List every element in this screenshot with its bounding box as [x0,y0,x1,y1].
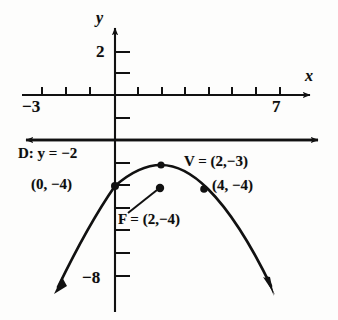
y-tick-label-2: 2 [96,43,105,60]
y-tick-label-minus8: −8 [82,269,100,286]
x-axis-label: x [305,68,313,84]
y-axis-label: y [96,10,103,26]
y-axis [115,28,130,312]
point-focus [156,184,164,192]
right-point-label: (4, −4) [212,178,253,193]
point-y-intercept [111,182,119,190]
x-axis [22,87,310,95]
focus-label: F = (2,−4) [118,212,180,227]
x-tick-label-minus3: −3 [22,98,40,115]
point-right [200,185,208,193]
y-axis-ticks [115,52,130,276]
directrix-label: D: y = −2 [18,146,77,161]
parabola-figure: y x −3 7 2 −8 D: y = −2 V = (2,−3) (0, −… [0,0,338,320]
point-vertex [157,161,164,168]
y-intercept-label: (0, −4) [31,177,72,192]
x-tick-label-7: 7 [272,98,281,115]
vertex-label: V = (2,−3) [184,154,248,169]
focus-leader-line [128,190,157,213]
x-axis-ticks [42,87,280,95]
